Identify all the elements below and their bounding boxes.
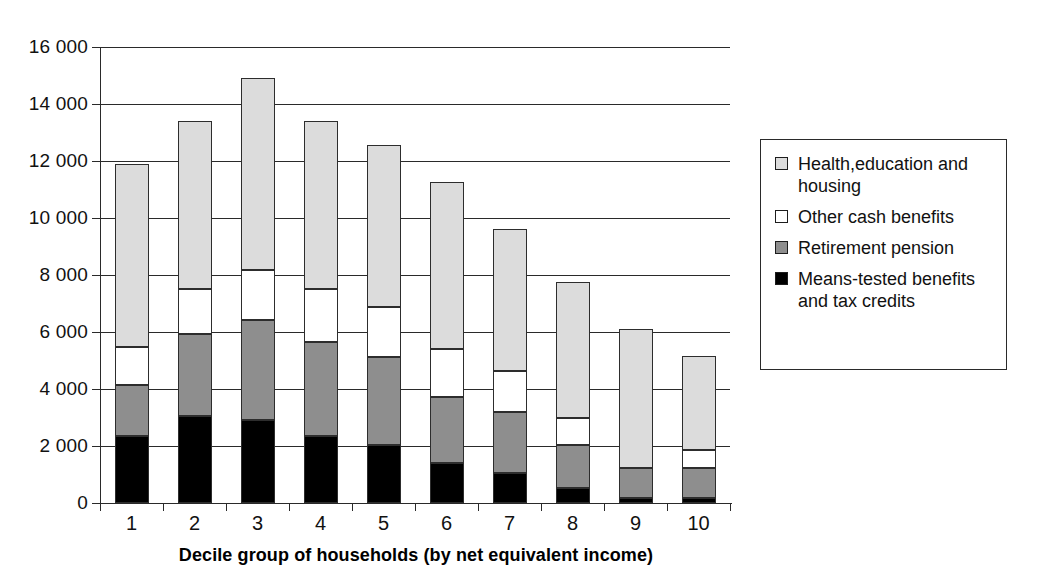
bar-segment	[493, 412, 527, 473]
y-tick-label: 12 000	[8, 151, 88, 170]
bar-segment	[493, 229, 527, 371]
legend-swatch-icon	[775, 157, 788, 170]
legend-item-1[interactable]: Other cash benefits	[775, 206, 999, 228]
bar-segment	[430, 182, 464, 349]
bar-segment	[367, 307, 401, 358]
bar-segment	[493, 473, 527, 503]
bar-segment	[304, 436, 338, 503]
bar-decile-2[interactable]	[178, 121, 212, 503]
x-axis-line	[100, 503, 732, 504]
x-tick-label-3: 3	[235, 512, 281, 534]
x-tick-mark	[604, 503, 605, 511]
bar-segment	[682, 356, 716, 450]
bar-segment	[115, 385, 149, 437]
bar-segment	[178, 416, 212, 503]
legend-item-3[interactable]: Means-tested benefits and tax credits	[775, 268, 999, 312]
x-tick-mark	[163, 503, 164, 511]
x-tick-mark	[100, 503, 101, 511]
y-tick-label: 8 000	[8, 265, 88, 284]
bar-segment	[556, 488, 590, 503]
bar-segment	[556, 282, 590, 417]
legend-label: Retirement pension	[798, 237, 954, 259]
bar-segment	[241, 420, 275, 503]
legend-item-2[interactable]: Retirement pension	[775, 237, 999, 259]
bar-segment	[115, 347, 149, 385]
bar-segment	[241, 270, 275, 320]
bar-segment	[682, 498, 716, 503]
x-tick-mark	[226, 503, 227, 511]
y-tick-label: 14 000	[8, 94, 88, 113]
bar-segment	[367, 445, 401, 503]
bar-segment	[367, 145, 401, 307]
x-tick-mark	[352, 503, 353, 511]
y-tick-label: 0	[8, 493, 88, 512]
y-tick-label: 16 000	[8, 37, 88, 56]
bar-segment	[304, 289, 338, 342]
bar-segment	[178, 334, 212, 416]
bar-segment	[115, 164, 149, 347]
bar-segment	[178, 289, 212, 334]
x-tick-label-9: 9	[613, 512, 659, 534]
x-tick-label-10: 10	[676, 512, 722, 534]
bar-segment	[682, 468, 716, 498]
bar-segment	[430, 349, 464, 397]
x-tick-mark	[289, 503, 290, 511]
bar-segment	[682, 450, 716, 468]
bar-decile-1[interactable]	[115, 164, 149, 503]
x-axis-title: Decile group of households (by net equiv…	[96, 545, 736, 566]
x-tick-label-8: 8	[550, 512, 596, 534]
bar-decile-5[interactable]	[367, 145, 401, 503]
bar-segment	[493, 371, 527, 412]
legend-label: Other cash benefits	[798, 206, 954, 228]
bar-segment	[619, 468, 653, 498]
bar-segment	[115, 436, 149, 503]
x-tick-mark	[667, 503, 668, 511]
bar-segment	[178, 121, 212, 289]
x-tick-label-1: 1	[109, 512, 155, 534]
bar-segment	[556, 445, 590, 488]
x-tick-label-4: 4	[298, 512, 344, 534]
bar-segment	[430, 463, 464, 503]
x-tick-mark	[541, 503, 542, 511]
legend-swatch-icon	[775, 241, 788, 254]
bar-segment	[619, 329, 653, 468]
x-tick-mark	[415, 503, 416, 511]
chart-legend: Health,education and housingOther cash b…	[760, 139, 1007, 370]
legend-label: Means-tested benefits and tax credits	[798, 268, 994, 312]
y-tick-label: 4 000	[8, 379, 88, 398]
bar-segment	[556, 418, 590, 445]
legend-swatch-icon	[775, 210, 788, 223]
bar-segment	[241, 320, 275, 420]
bar-segment	[430, 397, 464, 463]
x-tick-label-7: 7	[487, 512, 533, 534]
bar-segment	[304, 121, 338, 289]
y-tick-label: 2 000	[8, 436, 88, 455]
bar-segment	[619, 498, 653, 503]
bar-segment	[367, 357, 401, 444]
legend-item-0[interactable]: Health,education and housing	[775, 153, 999, 197]
x-tick-mark	[478, 503, 479, 511]
x-tick-label-5: 5	[361, 512, 407, 534]
x-tick-mark	[730, 503, 731, 511]
bar-decile-6[interactable]	[430, 182, 464, 503]
bar-decile-9[interactable]	[619, 329, 653, 503]
bar-segment	[304, 342, 338, 436]
bar-decile-8[interactable]	[556, 282, 590, 503]
x-tick-label-6: 6	[424, 512, 470, 534]
bar-decile-4[interactable]	[304, 121, 338, 503]
y-tick-label: 10 000	[8, 208, 88, 227]
y-tick-label: 6 000	[8, 322, 88, 341]
legend-swatch-icon	[775, 272, 788, 285]
legend-label: Health,education and housing	[798, 153, 994, 197]
bar-decile-10[interactable]	[682, 356, 716, 503]
chart-figure: 02 0004 0006 0008 00010 00012 00014 0001…	[0, 0, 1042, 585]
bar-decile-7[interactable]	[493, 229, 527, 503]
bar-decile-3[interactable]	[241, 78, 275, 503]
plot-area	[100, 47, 730, 503]
bar-segment	[241, 78, 275, 270]
x-tick-label-2: 2	[172, 512, 218, 534]
